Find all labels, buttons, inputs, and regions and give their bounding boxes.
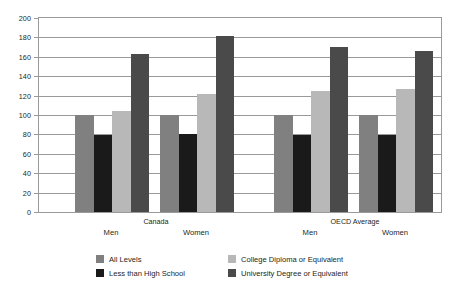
legend-label: All Levels bbox=[109, 255, 142, 264]
y-axis-tick-label: 180 bbox=[19, 33, 31, 42]
bar bbox=[396, 89, 415, 212]
bar bbox=[274, 115, 293, 212]
tick-mark bbox=[34, 96, 38, 97]
tick-mark bbox=[34, 76, 38, 77]
x-axis-subgroup-label: Men bbox=[104, 228, 119, 237]
y-axis-tick-label: 140 bbox=[19, 72, 31, 81]
legend-swatch bbox=[228, 255, 236, 263]
tick-mark bbox=[34, 18, 38, 19]
x-axis-subgroup-label: Women bbox=[183, 228, 209, 237]
bar bbox=[197, 94, 216, 212]
bar bbox=[179, 134, 198, 212]
plot-area bbox=[38, 17, 442, 213]
bar bbox=[94, 135, 113, 212]
tick-mark bbox=[34, 57, 38, 58]
legend-label: College Diploma or Equivalent bbox=[241, 255, 343, 264]
bar bbox=[330, 47, 349, 212]
bar bbox=[311, 91, 330, 212]
bar bbox=[160, 115, 179, 212]
y-axis-tick-label: 40 bbox=[23, 169, 31, 178]
tick-mark bbox=[34, 212, 38, 213]
bar bbox=[131, 54, 150, 212]
bars-layer bbox=[39, 18, 441, 212]
x-axis-group-label: Canada bbox=[143, 217, 168, 226]
x-axis-group-label: OECD Average bbox=[330, 217, 379, 226]
y-axis-tick-label: 100 bbox=[19, 111, 31, 120]
bar bbox=[216, 36, 235, 212]
bar bbox=[359, 115, 378, 212]
legend-item: All Levels bbox=[96, 255, 228, 264]
bar bbox=[378, 135, 397, 212]
y-axis-tick-label: 120 bbox=[19, 91, 31, 100]
y-axis-tick-label: 200 bbox=[19, 14, 31, 23]
y-axis-tick-label: 80 bbox=[23, 130, 31, 139]
chart-legend: All LevelsCollege Diploma or EquivalentL… bbox=[96, 252, 396, 280]
x-axis-subgroup-label: Men bbox=[303, 228, 318, 237]
bar bbox=[112, 111, 131, 212]
tick-mark bbox=[34, 154, 38, 155]
y-axis-tick-label: 160 bbox=[19, 52, 31, 61]
tick-mark bbox=[34, 173, 38, 174]
legend-item: University Degree or Equivalent bbox=[228, 269, 396, 278]
legend-item: Less than High School bbox=[96, 269, 228, 278]
legend-label: Less than High School bbox=[109, 269, 185, 278]
legend-swatch bbox=[96, 255, 104, 263]
y-axis-tick-label: 20 bbox=[23, 188, 31, 197]
x-axis-subgroup-label: Women bbox=[382, 228, 408, 237]
tick-mark bbox=[34, 37, 38, 38]
legend-item: College Diploma or Equivalent bbox=[228, 255, 396, 264]
tick-mark bbox=[34, 115, 38, 116]
legend-swatch bbox=[228, 269, 236, 277]
y-axis-tick-label: 60 bbox=[23, 149, 31, 158]
bar bbox=[75, 115, 94, 212]
legend-label: University Degree or Equivalent bbox=[241, 269, 348, 278]
legend-swatch bbox=[96, 269, 104, 277]
y-axis-tick-label: 0 bbox=[27, 208, 31, 217]
tick-mark bbox=[34, 193, 38, 194]
bar bbox=[415, 51, 434, 212]
bar-chart: 020406080100120140160180200 CanadaMenWom… bbox=[0, 0, 458, 294]
bar bbox=[293, 135, 312, 212]
tick-mark bbox=[34, 134, 38, 135]
